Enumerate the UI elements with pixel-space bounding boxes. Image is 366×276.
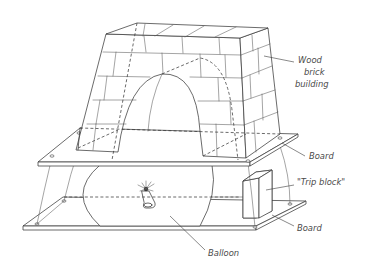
label-building-line2: brick xyxy=(304,67,326,77)
balloon-trip-diagram: Wood brick building Board "Trip block" B… xyxy=(0,0,366,276)
label-lower-board-text: Board xyxy=(297,223,322,233)
label-upper-board-text: Board xyxy=(309,151,334,161)
label-balloon-text: Balloon xyxy=(208,248,239,258)
label-trip-block: "Trip block" xyxy=(266,177,345,190)
label-upper-board: Board xyxy=(282,143,334,161)
label-trip-block-text: "Trip block" xyxy=(297,177,345,187)
label-building-line3: building xyxy=(295,79,329,89)
trip-block xyxy=(243,170,272,218)
label-building-line1: Wood xyxy=(298,55,323,65)
